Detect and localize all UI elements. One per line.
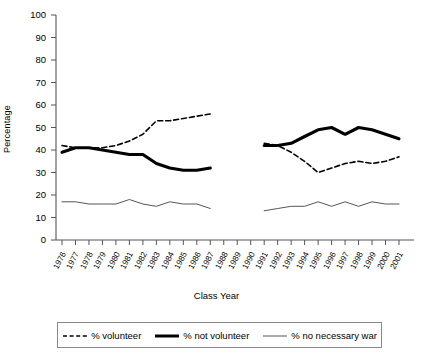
legend-item-volunteer: % volunteer: [62, 330, 141, 341]
plot-area: [0, 0, 433, 355]
legend-swatch-thin-solid: [262, 331, 288, 340]
series-line-not-volunteer: [62, 148, 210, 171]
legend-label-volunteer: % volunteer: [91, 330, 141, 341]
series-line-not-volunteer: [264, 128, 399, 146]
x-axis-ticks: [62, 240, 399, 245]
series-line-volunteer: [62, 114, 210, 148]
legend-item-not-volunteer: % not volunteer: [154, 330, 249, 341]
legend-label-no-necessary-war: % no necessary war: [291, 330, 377, 341]
series-line-volunteer: [264, 143, 399, 172]
series-line-no-necessary-war: [264, 202, 399, 211]
data-series-layer: [62, 114, 399, 211]
legend-swatch-dashed: [62, 331, 88, 340]
series-line-no-necessary-war: [62, 200, 210, 209]
chart-legend: % volunteer % not volunteer % no necessa…: [57, 322, 382, 348]
y-axis-ticks: [51, 15, 56, 240]
chart-figure: Percentage Class Year 010203040506070809…: [0, 0, 433, 355]
legend-item-no-necessary-war: % no necessary war: [262, 330, 377, 341]
legend-label-not-volunteer: % not volunteer: [183, 330, 249, 341]
legend-swatch-thick-solid: [154, 331, 180, 340]
